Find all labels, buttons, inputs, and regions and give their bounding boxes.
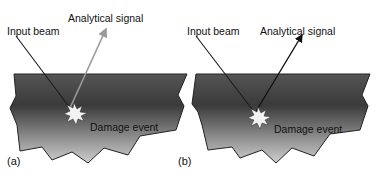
analytical-signal-label-a: Analytical signal xyxy=(68,13,143,24)
input-beam-label-a: Input beam xyxy=(7,26,60,37)
damage-event-label-a: Damage event xyxy=(90,122,158,133)
input-beam-label-b: Input beam xyxy=(187,26,240,37)
panel-label-a: (a) xyxy=(7,156,20,167)
sample-block-b xyxy=(192,74,370,163)
damage-event-label-b: Damage event xyxy=(274,124,342,135)
analytical-signal-label-b: Analytical signal xyxy=(260,26,335,37)
panel-label-b: (b) xyxy=(178,156,191,167)
sample-block-a xyxy=(10,74,187,163)
